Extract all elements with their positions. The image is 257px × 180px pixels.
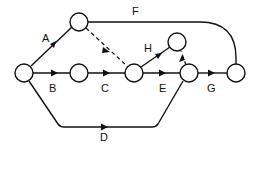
arrow-dummy-1-icon [102, 47, 110, 53]
node-6 [180, 64, 198, 82]
node-2 [70, 13, 88, 31]
arrow-g-icon [208, 70, 215, 77]
label-d: D [100, 131, 108, 143]
network-diagram: A B C D E F G H [0, 0, 257, 180]
label-h: H [144, 42, 152, 54]
arrow-d-icon [101, 124, 108, 131]
edge-a [31, 27, 72, 66]
edge-f [88, 22, 236, 64]
node-7 [227, 64, 245, 82]
label-g: G [207, 82, 216, 94]
label-c: C [101, 82, 109, 94]
arrow-dummy-2-icon [179, 55, 185, 62]
label-a: A [42, 32, 50, 44]
node-4 [125, 64, 143, 82]
label-f: F [132, 5, 139, 17]
node-3 [70, 64, 88, 82]
arrow-c-icon [103, 70, 110, 77]
dummy-edge-1 [86, 28, 128, 67]
label-e: E [159, 82, 166, 94]
node-5 [168, 33, 186, 51]
arrow-b-icon [51, 70, 58, 77]
node-1 [15, 64, 33, 82]
arrow-e-icon [159, 70, 166, 77]
label-b: B [49, 82, 56, 94]
